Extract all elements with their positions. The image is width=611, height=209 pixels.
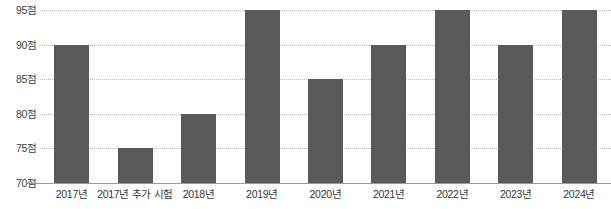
y-tick-label: 75점 (3, 143, 37, 154)
x-tick-label: 2024년 (524, 188, 611, 201)
x-axis: 2017년2017년 추가 시험2018년2019년2020년2021년2022… (0, 186, 611, 209)
y-tick-label: 95점 (3, 5, 37, 16)
bar (498, 45, 533, 183)
bar (435, 10, 470, 183)
y-tick-label: 90점 (3, 40, 37, 51)
gridline-95 (40, 10, 611, 11)
x-axis-line (26, 183, 611, 184)
plot-area (40, 0, 611, 183)
bar (54, 45, 89, 183)
y-axis: 70점75점80점85점90점95점 (0, 0, 37, 209)
y-tick-label: 85점 (3, 74, 37, 85)
bar (562, 10, 597, 183)
bar (245, 10, 280, 183)
bar-chart: 70점75점80점85점90점95점 2017년2017년 추가 시험2018년… (0, 0, 611, 209)
bar (308, 79, 343, 183)
bar (371, 45, 406, 183)
bar (181, 114, 216, 183)
y-tick-label: 80점 (3, 109, 37, 120)
bar (118, 148, 153, 183)
